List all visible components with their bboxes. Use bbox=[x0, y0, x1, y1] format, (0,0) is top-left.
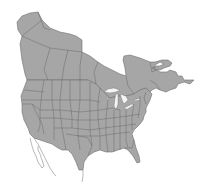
mexico-coast bbox=[82, 170, 83, 182]
north-america-map bbox=[0, 0, 208, 192]
